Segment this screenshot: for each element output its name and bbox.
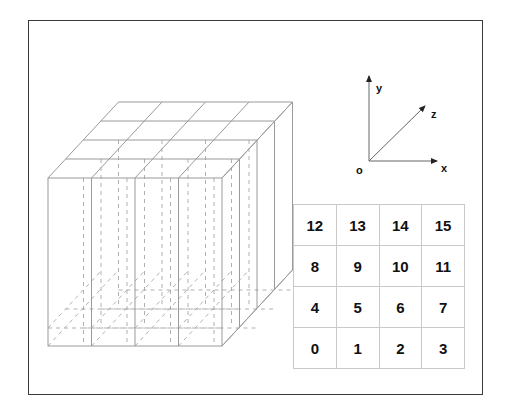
grid-cell: 3 (422, 328, 465, 369)
grid-cell: 5 (336, 287, 379, 328)
table-row: 0 1 2 3 (294, 328, 465, 369)
table-row: 12 13 14 15 (294, 205, 465, 246)
grid-cell: 11 (422, 246, 465, 287)
index-grid-panel: 12 13 14 15 8 9 10 11 4 5 6 (293, 204, 465, 369)
cube-hidden-edges (48, 140, 293, 346)
origin-label: o (356, 164, 363, 176)
coordinate-axes-svg (319, 56, 429, 166)
grid-cell: 8 (294, 246, 337, 287)
cube-wireframe-svg (39, 106, 279, 356)
y-axis-label: y (376, 82, 382, 94)
grid-cell: 7 (422, 287, 465, 328)
grid-cell: 0 (294, 328, 337, 369)
grid-cell: 4 (294, 287, 337, 328)
grid-cell: 10 (379, 246, 422, 287)
grid-cell: 6 (379, 287, 422, 328)
z-axis-label: z (431, 108, 437, 120)
index-grid-table: 12 13 14 15 8 9 10 11 4 5 6 (293, 204, 465, 369)
cube-wireframe-panel (39, 106, 279, 356)
grid-cell: 2 (379, 328, 422, 369)
grid-cell: 9 (336, 246, 379, 287)
x-axis-label: x (441, 162, 447, 174)
z-axis-line (369, 106, 425, 161)
table-row: 8 9 10 11 (294, 246, 465, 287)
grid-cell: 13 (336, 205, 379, 246)
grid-cell: 14 (379, 205, 422, 246)
grid-cell: 1 (336, 328, 379, 369)
grid-cell: 15 (422, 205, 465, 246)
figure-border-frame: y x z o 12 13 14 15 8 9 10 (28, 20, 483, 395)
table-row: 4 5 6 7 (294, 287, 465, 328)
grid-cell: 12 (294, 205, 337, 246)
coordinate-axes-panel: y x z o (319, 56, 429, 166)
figure-root: y x z o 12 13 14 15 8 9 10 (0, 0, 510, 420)
